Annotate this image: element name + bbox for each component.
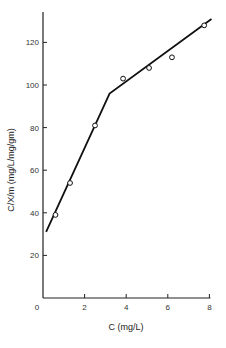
fit-polyline bbox=[46, 19, 211, 232]
y-tick-label: 120 bbox=[26, 38, 40, 47]
chart-area: 2040608010012002468 C (mg/L) C/X/m (mg/L… bbox=[0, 0, 226, 348]
data-markers bbox=[53, 23, 207, 217]
data-point-marker bbox=[202, 23, 207, 28]
fit-line bbox=[46, 19, 211, 232]
data-point-marker bbox=[93, 123, 98, 128]
x-tick-label: 4 bbox=[124, 303, 129, 312]
y-tick-label: 20 bbox=[30, 251, 39, 260]
axes bbox=[43, 12, 210, 298]
data-point-marker bbox=[170, 55, 175, 60]
y-tick-label: 40 bbox=[30, 209, 39, 218]
x-tick-label: 0 bbox=[35, 303, 40, 312]
ticks: 2040608010012002468 bbox=[26, 38, 213, 312]
data-point-marker bbox=[147, 66, 152, 71]
y-tick-label: 100 bbox=[26, 81, 40, 90]
data-point-marker bbox=[121, 76, 126, 81]
data-point-marker bbox=[68, 181, 73, 186]
data-point-marker bbox=[53, 213, 58, 218]
x-tick-label: 2 bbox=[82, 303, 87, 312]
y-tick-label: 60 bbox=[30, 166, 39, 175]
y-tick-label: 80 bbox=[30, 124, 39, 133]
x-axis-label: C (mg/L) bbox=[108, 322, 143, 332]
y-axis-label: C/X/m (mg/L/mg/gm) bbox=[6, 128, 16, 212]
x-tick-label: 8 bbox=[207, 303, 212, 312]
x-tick-label: 6 bbox=[166, 303, 171, 312]
